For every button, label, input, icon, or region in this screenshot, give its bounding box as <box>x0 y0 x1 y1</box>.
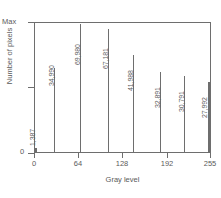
bar-211 <box>184 76 185 152</box>
x-axis-title: Gray level <box>34 176 211 184</box>
histogram-chart: Number of pixels Max 0 1,387 34,990 69,9… <box>0 0 221 198</box>
x-tick-mark-64 <box>78 153 79 158</box>
bar-255 <box>208 82 210 152</box>
bar-value-label-27: 34,990 <box>48 65 55 86</box>
bar-value-label-69: 69,980 <box>74 44 81 65</box>
x-tick-label-128: 128 <box>116 160 129 168</box>
x-tick-mark-192 <box>167 153 168 158</box>
bar-value-label-0: 1,387 <box>29 129 36 146</box>
bar-value-label-110: 67,181 <box>102 48 109 69</box>
x-tick-label-255: 255 <box>204 160 217 168</box>
bar-0 <box>35 148 37 152</box>
x-tick-label-64: 64 <box>74 160 82 168</box>
x-tick-mark-0 <box>34 153 35 158</box>
bar-value-label-183: 32,891 <box>154 87 161 108</box>
bar-value-label-255: 27,992 <box>201 97 208 118</box>
bar-value-label-145: 41,988 <box>127 70 134 91</box>
bar-183 <box>160 72 161 152</box>
x-tick-label-0: 0 <box>32 160 36 168</box>
x-tick-label-192: 192 <box>161 160 174 168</box>
plot-area <box>34 22 211 153</box>
bar-value-label-211: 30,791 <box>178 91 185 112</box>
x-tick-mark-128 <box>122 153 123 158</box>
x-tick-mark-255 <box>210 153 211 158</box>
